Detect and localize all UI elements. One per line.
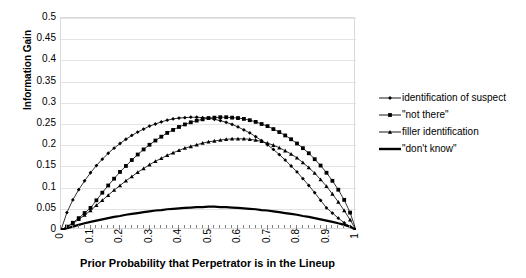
series-line — [61, 117, 356, 230]
data-point-marker — [118, 170, 122, 174]
data-point-marker — [71, 198, 75, 202]
x-tick-label: 0.2 — [104, 231, 134, 241]
legend-marker-none-icon — [378, 143, 402, 155]
y-tick-label: 0.45 — [12, 33, 56, 43]
x-axis-title: Prior Probability that Perpetrator is in… — [40, 257, 375, 269]
plot-area — [60, 17, 355, 229]
legend-label: "don't know" — [402, 143, 457, 155]
x-tick-label-text: 0.3 — [144, 229, 154, 243]
x-tick-label-text: 1 — [350, 233, 360, 239]
data-point-marker — [130, 158, 134, 162]
data-point-marker — [277, 130, 281, 134]
legend-item[interactable]: identification of suspect — [378, 90, 526, 105]
data-point-marker — [195, 115, 199, 119]
data-point-marker — [342, 198, 346, 202]
legend-marker-diamond-icon — [378, 92, 402, 104]
data-point-marker — [289, 137, 293, 141]
data-point-marker — [95, 198, 99, 202]
y-axis-tick-labels: 00.050.10.150.20.250.30.350.40.450.5 — [12, 17, 56, 229]
data-point-marker — [266, 124, 270, 128]
data-point-marker — [207, 116, 211, 120]
data-point-marker — [171, 128, 175, 132]
data-point-marker — [136, 153, 140, 157]
data-point-marker — [218, 119, 222, 123]
data-point-marker — [165, 118, 169, 122]
data-point-marker — [224, 115, 228, 119]
data-point-marker — [213, 116, 217, 120]
x-tick-label: 0.9 — [311, 231, 341, 241]
data-point-marker — [201, 117, 205, 121]
data-point-marker — [106, 184, 110, 188]
data-point-marker — [283, 149, 287, 153]
legend-item[interactable]: "not there" — [378, 107, 526, 122]
data-point-marker — [260, 122, 264, 126]
series-line — [61, 139, 356, 230]
data-point-marker — [154, 122, 158, 126]
x-tick-label-text: 0.5 — [203, 229, 213, 243]
data-point-marker — [154, 139, 158, 143]
data-point-marker — [254, 120, 258, 124]
data-point-marker — [319, 164, 323, 168]
x-tick-label: 0 — [45, 231, 75, 241]
data-point-marker — [272, 127, 276, 131]
data-point-marker — [313, 157, 317, 161]
data-point-marker — [236, 125, 240, 129]
data-point-marker — [153, 159, 157, 163]
x-tick-label: 0.3 — [134, 231, 164, 241]
legend-marker-square-icon — [378, 109, 402, 121]
information-gain-chart: Information Gain 00.050.10.150.20.250.30… — [0, 0, 526, 278]
data-point-marker — [283, 134, 287, 138]
y-tick-label: 0.05 — [12, 203, 56, 213]
x-tick-label-text: 0.8 — [291, 229, 301, 243]
x-tick-label-text: 0 — [55, 233, 65, 239]
data-point-marker — [242, 117, 246, 121]
x-tick-label-text: 0.4 — [173, 229, 183, 243]
data-point-marker — [159, 135, 163, 139]
data-point-marker — [177, 116, 181, 120]
data-point-marker — [325, 171, 329, 175]
series-1 — [61, 115, 356, 230]
data-point-marker — [171, 117, 175, 121]
data-point-marker — [348, 218, 352, 222]
y-tick-label: 0.15 — [12, 160, 56, 170]
data-point-marker — [236, 116, 240, 120]
data-point-marker — [112, 177, 116, 181]
data-point-marker — [248, 118, 252, 122]
series-0 — [61, 115, 356, 230]
data-point-marker — [295, 156, 299, 160]
data-point-marker — [189, 120, 193, 124]
y-tick-label: 0.35 — [12, 76, 56, 86]
data-point-marker — [301, 146, 305, 150]
data-series-layer — [61, 115, 356, 230]
data-point-marker — [183, 116, 187, 120]
x-tick-label: 0.1 — [75, 231, 105, 241]
y-tick-label: 0.25 — [12, 118, 56, 128]
data-point-marker — [159, 156, 163, 160]
y-tick-label: 0.4 — [12, 54, 56, 64]
data-point-marker — [147, 163, 151, 167]
x-tick-label: 1 — [340, 231, 370, 241]
legend-label: identification of suspect — [402, 92, 506, 104]
legend-item[interactable]: filler identification — [378, 124, 526, 139]
data-point-marker — [65, 211, 69, 215]
plot-svg — [61, 18, 356, 230]
data-point-marker — [183, 123, 187, 127]
data-point-marker — [100, 191, 104, 195]
data-point-marker — [348, 211, 352, 215]
data-point-marker — [289, 152, 293, 156]
x-tick-label: 0.7 — [252, 231, 282, 241]
x-tick-label-text: 0.2 — [114, 229, 124, 243]
data-point-marker — [165, 131, 169, 135]
data-point-marker — [177, 125, 181, 129]
data-point-marker — [307, 151, 311, 155]
y-tick-label: 0.5 — [12, 12, 56, 22]
data-point-marker — [331, 179, 335, 183]
x-tick-label-text: 0.6 — [232, 229, 242, 243]
data-point-marker — [295, 142, 299, 146]
data-point-marker — [242, 128, 246, 132]
data-point-marker — [189, 115, 193, 119]
data-point-marker — [142, 127, 146, 131]
legend-item[interactable]: "don't know" — [378, 141, 526, 156]
chart-legend: identification of suspect"not there"fill… — [378, 90, 526, 158]
data-point-marker — [142, 148, 146, 152]
